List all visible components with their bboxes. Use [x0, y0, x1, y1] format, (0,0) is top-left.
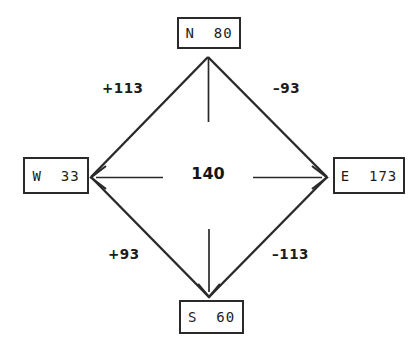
node-south: S 60: [179, 300, 244, 334]
flow-diagram: N 80 W 33 E 173 S 60 +113 –93 +93 –113 1…: [0, 0, 416, 353]
edge-label-south-west: +93: [108, 246, 140, 262]
diamond-edge-north-west: [91, 57, 208, 177]
diamond-edge-north-east: [208, 57, 327, 177]
node-north-label: N 80: [185, 25, 232, 41]
edge-label-south-east: –113: [272, 246, 309, 262]
diamond-edge-south-east: [209, 177, 327, 297]
node-south-label: S 60: [188, 309, 235, 325]
edge-label-north-east: –93: [273, 80, 300, 96]
edge-label-north-west: +113: [102, 80, 144, 96]
center-value: 140: [0, 164, 416, 183]
diamond-edge-south-west: [91, 177, 209, 297]
node-north: N 80: [177, 17, 241, 49]
